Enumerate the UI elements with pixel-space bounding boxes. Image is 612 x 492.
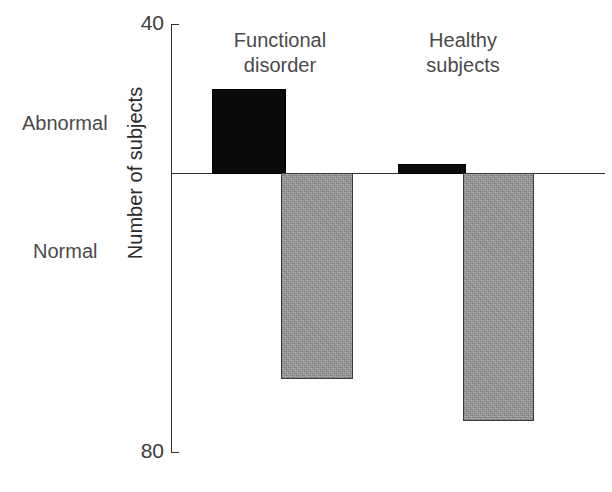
bar-chart: 40 80 Number of subjects Abnormal Normal…	[0, 0, 612, 492]
group-label-healthy-subjects: Healthy subjects	[426, 28, 499, 78]
bar-functional-disorder-abnormal	[212, 89, 286, 174]
y-axis-line	[171, 24, 172, 453]
row-label-normal: Normal	[33, 240, 97, 262]
row-label-abnormal: Abnormal	[22, 112, 108, 134]
y-axis-top-tick	[171, 24, 179, 25]
bar-functional-disorder-normal	[281, 173, 353, 379]
group-label-line-2: subjects	[426, 53, 499, 78]
y-axis-tick-label-top: 40	[114, 12, 164, 33]
y-axis-bottom-tick	[171, 452, 179, 453]
group-label-functional-disorder: Functional disorder	[234, 28, 326, 78]
group-label-line-2: disorder	[234, 53, 326, 78]
y-axis-title: Number of subjects	[125, 87, 145, 259]
group-label-line-1: Functional	[234, 28, 326, 53]
bar-healthy-subjects-abnormal	[398, 164, 466, 174]
y-axis-tick-label-bottom: 80	[114, 440, 164, 461]
bar-healthy-subjects-normal	[463, 173, 534, 421]
group-label-line-1: Healthy	[426, 28, 499, 53]
